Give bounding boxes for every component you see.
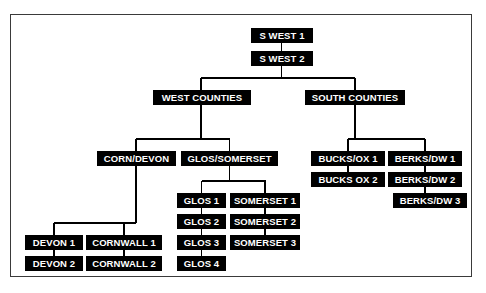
connector-bus-berksdw1 [424,139,426,151]
node-swest2[interactable]: S WEST 2 [251,51,313,66]
node-corndevon[interactable]: CORN/DEVON [97,151,176,166]
node-glossom[interactable]: GLOS/SOMERSET [181,151,278,166]
connector-level1-bus [201,77,355,79]
connector-corndevon-drop [135,166,137,223]
node-bucksox2[interactable]: BUCKS OX 2 [311,172,385,187]
connector-bus-glossom [229,139,231,151]
connector-glossom-bus [202,180,266,182]
diagram-canvas: S WEST 1S WEST 2WEST COUNTIESSOUTH COUNT… [0,0,486,293]
node-somerset3[interactable]: SOMERSET 3 [230,235,300,250]
node-devon2[interactable]: DEVON 2 [25,256,83,271]
node-bucksox1[interactable]: BUCKS/OX 1 [311,151,385,166]
connector-westco-drop [200,105,202,139]
node-swest1[interactable]: S WEST 1 [251,28,313,43]
node-cornwall2[interactable]: CORNWALL 2 [86,256,162,271]
connector-westco-bus [136,138,230,140]
connector-bus-bucksox1 [347,139,349,151]
connector-bus-glos1 [201,181,203,193]
org-chart: S WEST 1S WEST 2WEST COUNTIESSOUTH COUNT… [0,0,486,293]
connector-bus-cornwall1 [123,223,125,235]
connector-southco-bus [348,138,425,140]
node-westco[interactable]: WEST COUNTIES [153,90,251,105]
node-berksdw3[interactable]: BERKS/DW 3 [393,193,467,208]
connector-glossom-drop [229,166,231,181]
connector-bus-southco [354,78,356,90]
node-southco[interactable]: SOUTH COUNTIES [305,90,405,105]
node-somerset2[interactable]: SOMERSET 2 [230,214,300,229]
connector-bus-corndevon [135,139,137,151]
connector-bus-somerset1 [264,181,266,193]
node-berksdw1[interactable]: BERKS/DW 1 [388,151,462,166]
connector-swest2-bus [281,66,283,78]
node-cornwall1[interactable]: CORNWALL 1 [86,235,162,250]
node-glos1[interactable]: GLOS 1 [177,193,226,208]
connector-southco-drop [354,105,356,139]
connector-bus-devon1 [53,223,55,235]
node-somerset1[interactable]: SOMERSET 1 [230,193,300,208]
connector-swest1-swest2 [281,43,283,51]
node-devon1[interactable]: DEVON 1 [25,235,83,250]
node-berksdw2[interactable]: BERKS/DW 2 [388,172,462,187]
node-glos2[interactable]: GLOS 2 [177,214,226,229]
connector-bus-westco [200,78,202,90]
node-glos4[interactable]: GLOS 4 [177,256,226,271]
node-glos3[interactable]: GLOS 3 [177,235,226,250]
